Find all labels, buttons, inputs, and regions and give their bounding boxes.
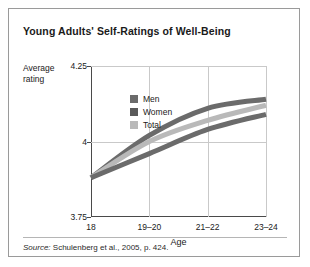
chart-title: Young Adults' Self-Ratings of Well-Being <box>23 25 231 37</box>
x-tick-label: 19–20 <box>138 222 162 232</box>
legend-label: Men <box>143 94 160 104</box>
source-prefix: Source: <box>23 243 51 252</box>
source-note: Source: Schulenberg et al., 2005, p. 424… <box>23 243 168 252</box>
chart-legend: MenWomenTotal <box>130 92 172 131</box>
legend-label: Total <box>143 120 161 130</box>
y-tick-label: 4.25 <box>70 61 87 71</box>
series-line-men <box>91 114 266 177</box>
legend-swatch-icon <box>130 121 138 129</box>
legend-swatch-icon <box>130 108 138 116</box>
y-axis-label: Average rating <box>23 63 75 85</box>
legend-item-women: Women <box>130 105 172 118</box>
series-lines <box>91 66 266 217</box>
plot-area: 3.7544.25 1819–2021–2223–24 <box>91 66 266 217</box>
figure-container: Young Adults' Self-Ratings of Well-Being… <box>8 8 300 257</box>
legend-swatch-icon <box>130 95 138 103</box>
x-tick-label: 18 <box>86 222 95 232</box>
source-divider <box>23 237 287 238</box>
x-tick-label: 21–22 <box>196 222 220 232</box>
source-citation: Schulenberg et al., 2005, p. 424. <box>51 243 169 252</box>
gridline-vertical <box>266 66 267 217</box>
legend-item-men: Men <box>130 92 172 105</box>
y-tick-label: 3.75 <box>70 212 87 222</box>
legend-item-total: Total <box>130 118 172 131</box>
legend-label: Women <box>143 107 172 117</box>
x-tick-label: 23–24 <box>254 222 278 232</box>
y-tick-mark <box>87 217 91 218</box>
